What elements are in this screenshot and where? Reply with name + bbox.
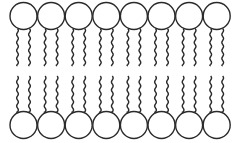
fatty-acid-tail — [56, 76, 58, 113]
fatty-acid-tail — [111, 76, 113, 113]
phospholipid-bottom — [203, 76, 230, 139]
phospholipid-top — [148, 3, 175, 67]
fatty-acid-tail — [72, 29, 74, 67]
phosphate-head — [176, 3, 203, 30]
fatty-acid-tail — [44, 29, 46, 67]
phosphate-head — [65, 112, 92, 139]
fatty-acid-tail — [111, 29, 113, 67]
fatty-acid-tail — [72, 76, 74, 113]
phosphate-head — [38, 112, 65, 139]
fatty-acid-tail — [127, 29, 129, 67]
phospholipid-top — [93, 3, 120, 67]
fatty-acid-tail — [167, 76, 169, 113]
phospholipid-top — [38, 3, 65, 67]
fatty-acid-tail — [84, 76, 86, 113]
fatty-acid-tail — [84, 29, 86, 67]
phosphate-head — [10, 112, 37, 139]
fatty-acid-tail — [56, 29, 58, 67]
fatty-acid-tail — [139, 76, 141, 113]
fatty-acid-tail — [210, 29, 212, 67]
fatty-acid-tail — [99, 76, 101, 113]
phospholipid-top — [176, 3, 203, 67]
phosphate-head — [203, 3, 230, 30]
phospholipid-bottom — [148, 76, 175, 139]
phosphate-head — [203, 112, 230, 139]
fatty-acid-tail — [210, 76, 212, 113]
phosphate-head — [10, 3, 37, 30]
bilayer-diagram — [0, 0, 239, 143]
fatty-acid-tail — [29, 76, 31, 113]
phospholipid-top — [120, 3, 147, 67]
phosphate-head — [38, 3, 65, 30]
phospholipid-bottom — [93, 76, 120, 139]
fatty-acid-tail — [182, 76, 184, 113]
fatty-acid-tail — [17, 29, 19, 67]
phospholipid-top — [10, 3, 37, 67]
phospholipid-bottom — [10, 76, 37, 139]
fatty-acid-tail — [194, 29, 196, 67]
fatty-acid-tail — [99, 29, 101, 67]
phosphate-head — [65, 3, 92, 30]
phosphate-head — [93, 112, 120, 139]
phospholipid-top — [65, 3, 92, 67]
fatty-acid-tail — [139, 29, 141, 67]
phospholipid-bottom — [38, 76, 65, 139]
fatty-acid-tail — [44, 76, 46, 113]
phosphate-head — [176, 112, 203, 139]
fatty-acid-tail — [167, 29, 169, 67]
fatty-acid-tail — [155, 76, 157, 113]
fatty-acid-tail — [29, 29, 31, 67]
fatty-acid-tail — [127, 76, 129, 113]
phospholipid-bottom — [120, 76, 147, 139]
fatty-acid-tail — [194, 76, 196, 113]
bilayer-canvas — [0, 0, 239, 143]
fatty-acid-tail — [222, 29, 224, 67]
phospholipid-top — [203, 3, 230, 67]
phosphate-head — [148, 3, 175, 30]
fatty-acid-tail — [17, 76, 19, 113]
phosphate-head — [120, 3, 147, 30]
phosphate-head — [120, 112, 147, 139]
fatty-acid-tail — [222, 76, 224, 113]
fatty-acid-tail — [155, 29, 157, 67]
phospholipid-bottom — [176, 76, 203, 139]
phosphate-head — [93, 3, 120, 30]
phosphate-head — [148, 112, 175, 139]
fatty-acid-tail — [182, 29, 184, 67]
phospholipid-bottom — [65, 76, 92, 139]
